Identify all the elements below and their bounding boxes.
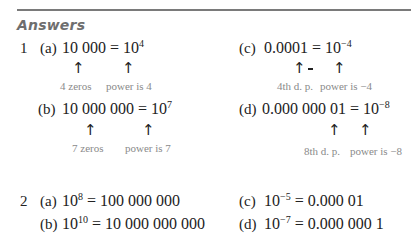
arrow-up-icon: ↑ <box>328 121 341 139</box>
q1d-label: (d) <box>239 101 257 118</box>
question-1-number: 1 <box>20 40 28 57</box>
q1d-equation: 0.000 000 01 = 10−8 <box>262 100 390 118</box>
question-2-number: 2 <box>20 193 28 210</box>
q2d-label: (d) <box>239 216 257 233</box>
q1c-note-power: power is −4 <box>320 80 372 92</box>
q2c-label: (c) <box>239 193 256 210</box>
q1c-label: (c) <box>239 40 256 57</box>
q1b-label: (b) <box>38 101 56 118</box>
q1a-note-zeros: 4 zeros <box>60 80 91 92</box>
dash-mark <box>308 68 313 70</box>
q2d-equation: 10−7 = 0.000 000 1 <box>264 215 384 233</box>
arrow-up-icon: ↑ <box>84 121 97 139</box>
q2a-equation: 108 = 100 000 000 <box>62 192 180 210</box>
q2b-label: (b) <box>40 216 58 233</box>
arrow-up-icon: ↑ <box>122 59 135 77</box>
q1a-label: (a) <box>40 40 57 57</box>
top-rule <box>17 9 411 11</box>
q1c-note-dp: 4th d. p. <box>277 80 313 92</box>
arrow-up-icon: ↑ <box>293 59 313 77</box>
arrow-up-icon: ↑ <box>359 121 372 139</box>
q1b-note-zeros: 7 zeros <box>72 142 103 154</box>
q1d-note-power: power is −8 <box>350 145 402 157</box>
q1b-note-power: power is 7 <box>125 142 171 154</box>
q2b-equation: 1010 = 10 000 000 000 <box>62 215 205 233</box>
q1d-note-dp: 8th d. p. <box>304 145 340 157</box>
q1c-equation: 0.0001 = 10−4 <box>264 39 352 57</box>
q1a-equation: 10 000 = 104 <box>62 39 144 57</box>
answers-heading: Answers <box>17 17 85 33</box>
arrow-up-icon: ↑ <box>333 59 346 77</box>
arrow-up-icon: ↑ <box>72 59 85 77</box>
q1b-equation: 10 000 000 = 107 <box>62 100 172 118</box>
q2c-equation: 10−5 = 0.000 01 <box>264 192 364 210</box>
arrow-up-icon: ↑ <box>142 121 155 139</box>
q1a-note-power: power is 4 <box>106 80 152 92</box>
q2a-label: (a) <box>40 193 57 210</box>
